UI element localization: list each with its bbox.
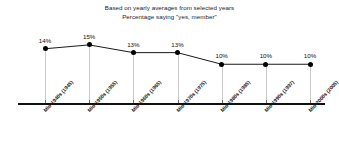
data-point-label: 10%	[209, 52, 235, 59]
line-chart: Based on yearly averages from selected y…	[0, 0, 339, 159]
data-point-label: 14%	[32, 37, 58, 44]
drop-line	[89, 45, 90, 103]
data-point-marker	[43, 46, 48, 51]
data-point-label: 15%	[76, 33, 102, 40]
x-axis-line	[18, 103, 325, 105]
data-point-marker	[219, 62, 224, 67]
data-point-label: 10%	[297, 52, 323, 59]
drop-line	[45, 49, 46, 103]
drop-line	[266, 64, 267, 103]
data-point-label: 13%	[165, 41, 191, 48]
data-point-label: 10%	[253, 52, 279, 59]
data-point-label: 13%	[120, 41, 146, 48]
drop-line	[222, 64, 223, 103]
series-line	[0, 0, 339, 159]
data-point-marker	[131, 50, 136, 55]
data-point-marker	[308, 62, 313, 67]
drop-line	[310, 64, 311, 103]
drop-line	[178, 53, 179, 103]
drop-line	[133, 53, 134, 103]
plot-area: 14%15%13%13%10%10%10% Mid-1940s (1945)Mi…	[0, 0, 339, 159]
